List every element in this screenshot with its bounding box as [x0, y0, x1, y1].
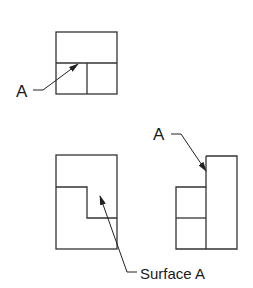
label-a-side: A [153, 125, 165, 144]
front-view-step-edge [56, 187, 117, 218]
label-a-top-group: A [16, 64, 78, 101]
leader-arrow [100, 196, 137, 272]
label-surface-a: Surface A [140, 265, 205, 282]
side-view [176, 156, 237, 249]
top-view [56, 32, 117, 94]
orthographic-drawing: A A Surface A [0, 0, 253, 288]
label-surface-a-group: Surface A [100, 196, 205, 282]
front-view [56, 155, 117, 249]
leader-arrow [171, 134, 206, 171]
label-a-side-group: A [153, 125, 206, 171]
label-a-top: A [16, 82, 28, 101]
